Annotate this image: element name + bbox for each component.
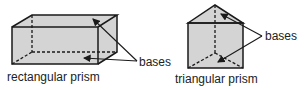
rectangular-prism bbox=[12, 15, 137, 64]
rectangular-prism-label: rectangular prism bbox=[7, 71, 100, 83]
triangular-prism-label: triangular prism bbox=[175, 73, 258, 85]
bases-label: bases bbox=[139, 56, 171, 68]
bases-label: bases bbox=[265, 30, 297, 42]
triangular-prism bbox=[188, 5, 262, 68]
